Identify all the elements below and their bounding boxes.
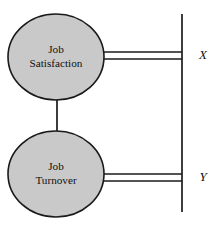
node-job-satisfaction[interactable]: Job Satisfaction [8, 14, 104, 100]
diagram-svg: Job Satisfaction Job Turnover X Y [0, 0, 223, 233]
node-job-turnover-label-line2: Turnover [35, 174, 77, 186]
node-job-turnover[interactable]: Job Turnover [8, 131, 104, 217]
node-job-satisfaction-label-line2: Satisfaction [30, 57, 83, 69]
path-diagram-canvas: Job Satisfaction Job Turnover X Y [0, 0, 223, 233]
axis-label-x: X [198, 47, 208, 62]
edge-satisfaction-to-bar [100, 52, 182, 59]
axis-label-y: Y [199, 169, 208, 184]
edge-turnover-to-bar [100, 174, 182, 181]
node-job-satisfaction-label-line1: Job [48, 43, 64, 55]
node-job-turnover-label-line1: Job [48, 160, 64, 172]
